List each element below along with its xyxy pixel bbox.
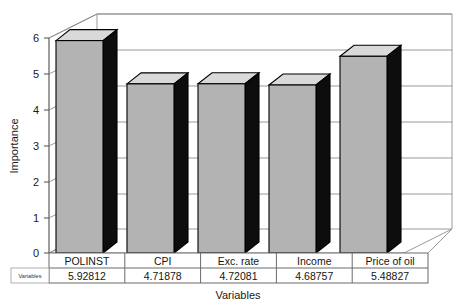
bar-front-face: [127, 84, 174, 253]
table-row-label: Variables: [19, 273, 42, 279]
table-value-cell-cpi: 4.71878: [144, 270, 182, 282]
bar-front-face: [56, 41, 103, 253]
table-header-cell-polinst: POLINST: [64, 255, 110, 267]
data-table: Variables POLINST CPI Exc. rate Income P…: [11, 253, 428, 283]
table-header-cell-price-of-oil: Price of oil: [366, 255, 415, 267]
y-tick-label-6: 6: [33, 32, 39, 44]
chart-figure: 6 5 4 3 2 1 0 Importance: [0, 0, 464, 306]
bar-price-of-oil: [340, 45, 401, 253]
y-tick-label-4: 4: [33, 104, 39, 116]
y-tick-label-2: 2: [33, 176, 39, 188]
table-value-cell-income: 4.68757: [295, 270, 333, 282]
table-header-cell-exc-rate: Exc. rate: [218, 255, 260, 267]
bar-exc-rate: [198, 73, 259, 253]
bar-income: [269, 74, 330, 253]
bar-front-face: [340, 56, 387, 253]
bar-chart-3d: 6 5 4 3 2 1 0 Importance: [0, 0, 464, 306]
table-header-cell-cpi: CPI: [154, 255, 172, 267]
bar-side-face: [174, 73, 188, 253]
bar-cpi: [127, 73, 188, 253]
y-axis-title: Importance: [8, 118, 20, 173]
bar-side-face: [387, 45, 401, 253]
table-value-cell-polinst: 5.92812: [68, 270, 106, 282]
y-tick-label-1: 1: [33, 212, 39, 224]
y-tick-label-0: 0: [33, 247, 39, 259]
x-axis-title: Variables: [215, 289, 261, 301]
y-tick-label-3: 3: [33, 140, 39, 152]
bar-side-face: [245, 73, 259, 253]
table-header-cell-income: Income: [297, 255, 332, 267]
bar-polinst: [56, 30, 117, 253]
table-value-cell-exc-rate: 4.72081: [220, 270, 258, 282]
bar-side-face: [103, 30, 117, 253]
table-value-cell-price-of-oil: 5.48827: [371, 270, 409, 282]
bar-front-face: [198, 84, 245, 253]
y-tick-label-5: 5: [33, 68, 39, 80]
bar-side-face: [316, 74, 330, 253]
bar-front-face: [269, 85, 316, 253]
